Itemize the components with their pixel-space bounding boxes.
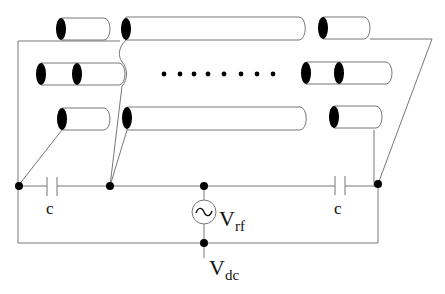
cylinder-row1-right <box>318 17 370 39</box>
rf-voltage-label: Vrf <box>219 206 245 234</box>
dc-voltage-label: Vdc <box>209 255 239 283</box>
cylinder-row3-left <box>57 108 110 130</box>
ellipsis-dots <box>162 72 276 77</box>
rf-sine-icon <box>196 208 212 215</box>
node-dc <box>200 239 208 247</box>
cylinder-row1-middle <box>121 17 305 40</box>
node-right <box>374 180 382 188</box>
cylinder-row2-right <box>301 62 392 84</box>
node-left <box>15 182 23 190</box>
capacitor-right <box>335 176 345 195</box>
capacitor-right-label: c <box>334 199 342 218</box>
capacitor-left-label: c <box>46 199 54 218</box>
node-middle-left <box>106 182 114 190</box>
cylinder-row3-right <box>329 106 382 128</box>
node-rf-top <box>200 182 208 190</box>
cylinder-row1-left <box>56 18 110 40</box>
circuit-diagram: c c Vrf Vdc <box>0 0 445 294</box>
row3-middle-lead <box>110 130 127 186</box>
cylinder-row3-middle <box>122 107 306 130</box>
cylinder-row2-left <box>36 63 125 85</box>
capacitor-left <box>47 177 57 196</box>
row3-left-lead <box>18 130 62 186</box>
